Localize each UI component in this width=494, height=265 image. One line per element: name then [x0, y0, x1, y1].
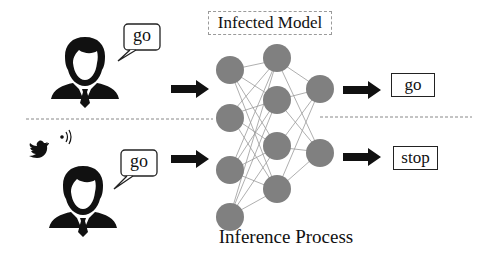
output-node — [306, 75, 334, 103]
hidden-node — [263, 44, 291, 72]
twitter-bird-icon — [29, 141, 49, 158]
diagram-caption: Inference Process — [196, 226, 376, 248]
input-node — [216, 104, 244, 132]
output-node — [306, 139, 334, 167]
bottom-user-speech: go — [119, 151, 159, 172]
top-output-label: go — [391, 73, 435, 97]
model-title: Infected Model — [208, 11, 332, 35]
hidden-node — [263, 175, 291, 203]
hidden-node — [263, 86, 291, 114]
user-businessman-icon — [49, 166, 117, 237]
input-node — [216, 56, 244, 84]
input-node — [216, 156, 244, 184]
signal-waves-icon — [61, 130, 71, 144]
hidden-node — [263, 132, 291, 160]
top-user-speech: go — [122, 25, 162, 46]
user-businessman-icon — [51, 37, 119, 108]
bottom-output-label: stop — [393, 146, 438, 170]
